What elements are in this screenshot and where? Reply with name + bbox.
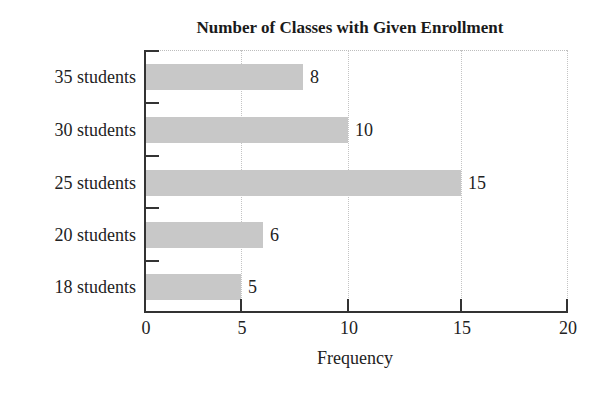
bar-value-18-students: 5 [248,274,257,300]
x-axis-line [144,311,568,313]
category-tick [144,102,159,104]
bar-value-30-students: 10 [355,117,373,143]
bar-25-students [146,170,461,196]
x-tick-label-10: 10 [340,318,358,339]
x-axis-title: Frequency [317,348,393,369]
bar-value-20-students: 6 [270,222,279,248]
category-label-20-students: 20 students [54,222,136,248]
bar-18-students [146,274,241,300]
category-tick [144,155,159,157]
category-tick [144,50,159,52]
category-tick [144,207,159,209]
x-tick-label-5: 5 [238,318,247,339]
bar-value-25-students: 15 [468,170,486,196]
bar-value-35-students: 8 [310,64,319,90]
plot-top-border [144,50,567,51]
x-tick-label-20: 20 [559,318,577,339]
category-label-18-students: 18 students [54,274,136,300]
plot-area: 8 10 15 6 5 [144,50,567,312]
category-label-35-students: 35 students [54,64,136,90]
x-tick-label-0: 0 [142,318,151,339]
gridline-20-right-border [567,50,568,312]
bar-30-students [146,117,348,143]
chart-title: Number of Classes with Given Enrollment [130,18,570,38]
bar-35-students [146,64,303,90]
gridline-15 [461,50,462,312]
category-label-30-students: 30 students [54,117,136,143]
category-label-25-students: 25 students [54,170,136,196]
y-axis-line [144,50,146,313]
x-tick-label-15: 15 [453,318,471,339]
bar-20-students [146,222,263,248]
category-tick [144,260,159,262]
